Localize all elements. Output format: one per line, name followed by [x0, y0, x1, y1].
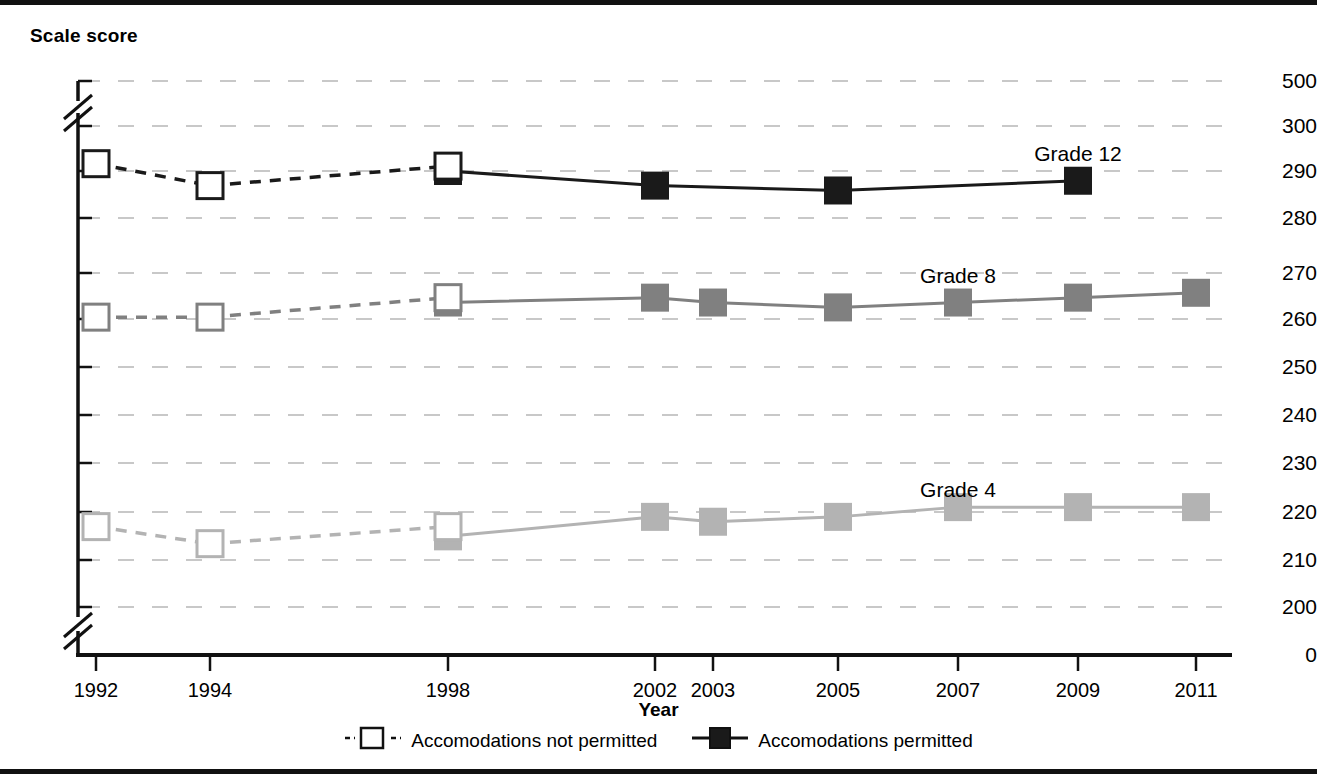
series-label-grade-12: Grade 12	[1034, 142, 1122, 166]
y-tick-label: 210	[1249, 548, 1317, 572]
legend-label-not-permitted: Accomodations not permitted	[411, 730, 657, 752]
series-label-grade-4: Grade 4	[920, 478, 996, 502]
y-tick-label: 260	[1249, 307, 1317, 331]
legend-label-permitted: Accomodations permitted	[758, 730, 972, 752]
y-tick-label: 220	[1249, 500, 1317, 524]
y-tick-label: 290	[1249, 159, 1317, 183]
y-tick-label: 250	[1249, 355, 1317, 379]
y-tick-label: 280	[1249, 206, 1317, 230]
legend-item-permitted[interactable]: Accomodations permitted	[691, 725, 972, 756]
y-tick-label: 200	[1249, 595, 1317, 619]
y-tick-label: 0	[1249, 643, 1317, 667]
plot-svg	[0, 5, 1317, 705]
filled-square-solid-icon	[691, 725, 749, 756]
x-axis-title: Year	[0, 699, 1317, 721]
open-square-dashed-icon	[344, 725, 402, 756]
chart-figure: Scale score 0200210220230240250260270280…	[0, 0, 1317, 774]
y-tick-label: 300	[1249, 114, 1317, 138]
chart-legend: Accomodations not permitted Accomodation…	[0, 725, 1317, 756]
plot-area	[0, 5, 1317, 705]
y-tick-label: 500	[1249, 69, 1317, 93]
legend-item-not-permitted[interactable]: Accomodations not permitted	[344, 725, 657, 756]
y-tick-label: 240	[1249, 403, 1317, 427]
y-tick-label: 270	[1249, 261, 1317, 285]
series-label-grade-8: Grade 8	[920, 264, 996, 288]
y-tick-label: 230	[1249, 451, 1317, 475]
